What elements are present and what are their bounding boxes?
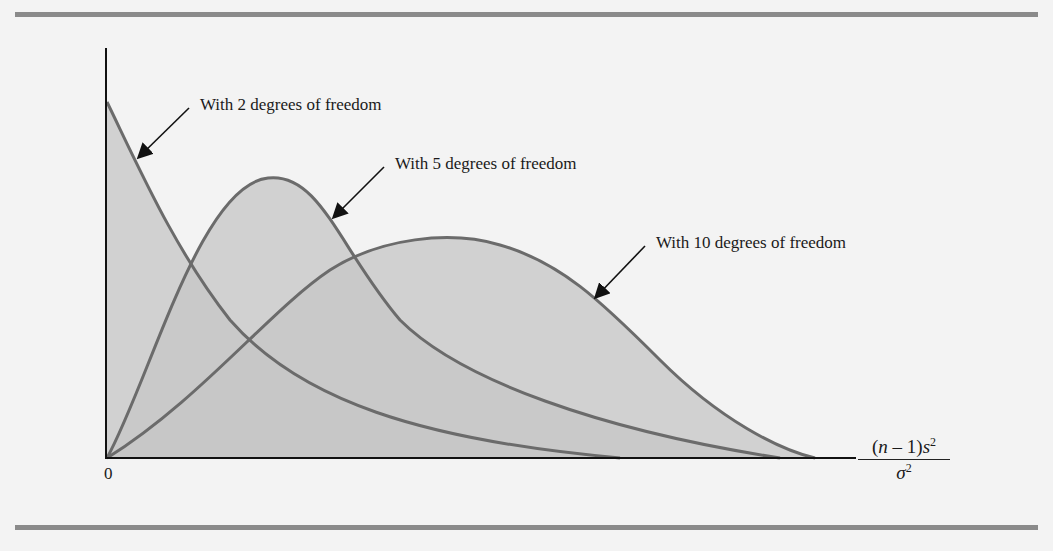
df10-label: With 10 degrees of freedom xyxy=(656,233,846,253)
df2-label: With 2 degrees of freedom xyxy=(200,95,382,115)
df5-arrow xyxy=(334,167,384,217)
x-axis-label-numerator: (n – 1)s2 xyxy=(858,435,950,460)
x-axis-label-denominator: σ2 xyxy=(858,460,950,484)
df2-arrow xyxy=(139,108,189,157)
df5-label: With 5 degrees of freedom xyxy=(395,154,577,174)
x-origin-tick: 0 xyxy=(104,464,113,484)
x-axis-label: (n – 1)s2 σ2 xyxy=(858,435,950,485)
df10-arrow xyxy=(596,246,645,297)
